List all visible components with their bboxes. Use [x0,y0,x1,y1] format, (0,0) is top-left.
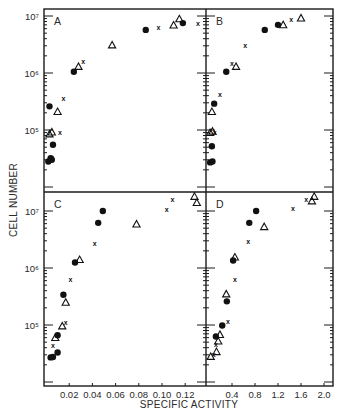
point-triangle [223,290,230,296]
y-tick-label: 10⁶ [25,68,40,79]
point-x: x [233,276,237,283]
point-x: x [93,240,97,247]
point-x: x [226,318,230,325]
point-x: x [212,351,216,358]
point-x: x [170,196,174,203]
point-circle [50,142,56,148]
point-triangle [297,14,304,20]
tick-labels: A10⁵10⁶10⁷BC10⁵10⁶10⁷0.020.040.060.080.1… [24,11,330,400]
point-triangle [261,223,268,229]
point-x: x [243,42,247,49]
axis-ticks [44,16,333,386]
point-x: x [165,206,169,213]
panel-label-a: A [54,15,61,27]
point-triangle [109,41,116,47]
point-x: x [196,20,200,27]
point-circle [72,259,78,265]
point-x: x [157,24,161,31]
y-axis-title: CELL NUMBER [8,163,19,237]
point-circle [49,157,55,163]
point-triangle [62,299,69,305]
point-x: x [246,238,250,245]
x-tick-label: 0.8 [248,389,261,400]
point-circle [71,69,77,75]
point-circle [54,349,60,355]
point-circle [262,27,268,33]
point-circle [246,220,252,226]
x-tick-label: 2.0 [317,389,330,400]
point-x: x [64,319,68,326]
y-tick-label: 10⁷ [25,206,40,217]
x-tick-label: 1.6 [294,389,307,400]
point-x: x [68,276,72,283]
point-circle [230,257,236,263]
point-circle [209,143,215,149]
panel-frames [44,9,333,386]
x-axis-title: SPECIFIC ACTIVITY [140,399,238,410]
point-circle [223,69,229,75]
panel-label-b: B [216,15,223,27]
point-x: x [81,58,85,65]
point-circle [46,103,52,109]
point-circle [253,208,259,214]
point-x: x [218,91,222,98]
point-circle [180,20,186,26]
point-triangle [208,108,215,114]
point-x: x [230,60,234,67]
point-x: x [214,341,218,348]
point-circle [209,158,215,164]
panel-label-c: C [54,198,62,210]
data-marks: xxxxxxxxxxxxxxxxxxxxxxxx [45,14,318,360]
point-circle [275,22,281,28]
plot-frame [44,9,333,386]
y-tick-label: 10⁵ [24,125,39,136]
point-triangle [170,22,177,28]
point-circle [224,298,230,304]
point-x: x [289,16,293,23]
x-tick-label: 0.04 [83,389,102,400]
point-circle [211,100,217,106]
x-tick-label: 0.02 [60,389,79,400]
point-circle [50,354,56,360]
point-circle [60,292,66,298]
point-x: x [213,129,217,136]
y-tick-label: 10⁷ [25,11,40,22]
point-x: x [304,196,308,203]
point-triangle [308,197,315,203]
point-circle [100,208,106,214]
point-triangle [54,108,61,114]
x-tick-label: 0.06 [106,389,125,400]
panel-label-d: D [216,198,224,210]
point-triangle [133,220,140,226]
figure: A10⁵10⁶10⁷BC10⁵10⁶10⁷0.020.040.060.080.1… [0,0,343,417]
point-x: x [58,129,62,136]
point-x: x [291,205,295,212]
point-circle [143,27,149,33]
point-triangle [193,199,200,205]
x-tick-label: 1.2 [271,389,284,400]
y-tick-label: 10⁵ [24,320,39,331]
y-tick-label: 10⁶ [25,263,40,274]
point-circle [219,322,225,328]
point-x: x [61,95,65,102]
point-x: x [51,342,55,349]
point-circle [95,220,101,226]
